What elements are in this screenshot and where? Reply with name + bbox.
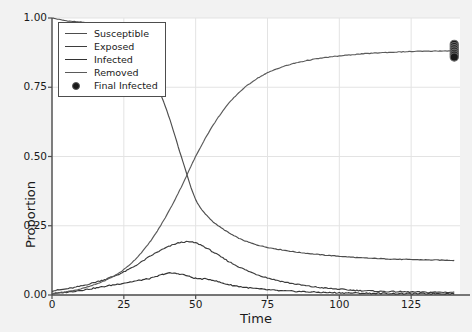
legend-item-final-infected: Final Infected bbox=[64, 79, 158, 92]
x-tick-label: 25 bbox=[104, 298, 144, 310]
legend-line-icon bbox=[64, 66, 88, 79]
x-tick-label: 0 bbox=[32, 298, 72, 310]
final-infected-markers bbox=[450, 40, 458, 61]
line-swatch-icon bbox=[65, 72, 87, 73]
final-infected-marker bbox=[450, 53, 458, 61]
chart-legend: SusceptibleExposedInfectedRemovedFinal I… bbox=[58, 22, 166, 97]
chart-figure: 0.000.250.500.751.00 0255075100125 Propo… bbox=[0, 0, 472, 332]
legend-item-label: Removed bbox=[94, 66, 139, 79]
x-tick-label: 100 bbox=[319, 298, 359, 310]
legend-item-label: Infected bbox=[94, 53, 133, 66]
line-swatch-icon bbox=[65, 59, 87, 60]
legend-line-icon bbox=[64, 27, 88, 40]
legend-item-label: Exposed bbox=[94, 40, 134, 53]
legend-line-icon bbox=[64, 53, 88, 66]
legend-item-infected: Infected bbox=[64, 53, 158, 66]
circle-marker-icon bbox=[72, 82, 80, 90]
x-tick-label: 50 bbox=[176, 298, 216, 310]
x-tick-label: 125 bbox=[391, 298, 431, 310]
y-axis-label: Proportion bbox=[23, 135, 38, 295]
line-swatch-icon bbox=[65, 33, 87, 34]
legend-item-removed: Removed bbox=[64, 66, 158, 79]
y-tick-label: 1.00 bbox=[0, 11, 47, 23]
legend-item-exposed: Exposed bbox=[64, 40, 158, 53]
legend-item-label: Final Infected bbox=[94, 79, 158, 92]
final-infected-marker-icon bbox=[64, 79, 88, 92]
line-swatch-icon bbox=[65, 46, 87, 47]
legend-item-label: Susceptible bbox=[94, 27, 149, 40]
y-axis-label-holder: Proportion bbox=[2, 78, 20, 238]
legend-item-susceptible: Susceptible bbox=[64, 27, 158, 40]
x-axis-label: Time bbox=[52, 311, 460, 326]
x-tick-label: 75 bbox=[247, 298, 287, 310]
legend-line-icon bbox=[64, 40, 88, 53]
